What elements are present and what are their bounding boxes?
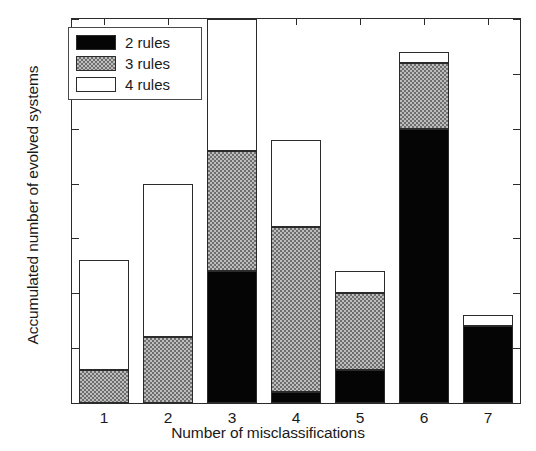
bar-segment [271,227,321,392]
bar-segment [399,63,449,129]
legend-item: 3 rules [69,53,201,74]
bar-chart-figure: Accumulated number of evolved systems Nu… [0,0,536,451]
white-swatch-icon [76,77,116,92]
gray-swatch-icon [76,56,116,71]
y-axis-label: Accumulated number of evolved systems [24,5,42,405]
legend-item: 2 rules [69,32,201,53]
bar-segment [399,52,449,63]
x-tick-label: 7 [458,409,518,427]
x-tick-label: 1 [74,409,134,427]
bar-segment [143,337,193,403]
black-swatch-icon [76,35,116,50]
bar-segment [335,271,385,293]
bar-stack [207,19,257,403]
x-tick-label: 2 [138,409,198,427]
y-tick-mark-right [513,19,520,20]
bar-segment [207,151,257,272]
bar-segment [335,293,385,370]
bar-segment [399,129,449,403]
x-tick-label: 4 [266,409,326,427]
bar-segment [79,370,129,403]
bar-segment [271,140,321,228]
y-tick-mark [72,293,79,294]
legend-item-label: 4 rules [125,77,170,92]
y-tick-mark-right [513,184,520,185]
legend-item-label: 3 rules [125,56,170,71]
y-tick-mark-right [513,348,520,349]
bar-stack [271,19,321,403]
y-tick-mark [72,348,79,349]
y-tick-mark-right [513,74,520,75]
bar-segment [463,315,513,326]
y-tick-mark [72,403,79,404]
bar-segment [143,184,193,338]
y-tick-mark-right [513,403,520,404]
bar-stack [335,19,385,403]
bar-segment [79,260,129,370]
y-tick-mark [72,19,79,20]
y-tick-mark-right [513,238,520,239]
legend: 2 rules 3 rules 4 rules [68,27,202,100]
legend-item-label: 2 rules [125,35,170,50]
y-tick-mark-right [513,293,520,294]
bar-segment [207,19,257,151]
x-tick-label: 3 [202,409,262,427]
x-tick-label: 6 [394,409,454,427]
x-tick-label: 5 [330,409,390,427]
bar-segment [463,326,513,403]
bar-stack [463,19,513,403]
y-tick-mark-right [513,129,520,130]
bar-segment [335,370,385,403]
bar-segment [207,271,257,403]
bar-stack [399,19,449,403]
y-tick-mark [72,129,79,130]
bar-segment [271,392,321,403]
y-tick-mark [72,184,79,185]
y-tick-mark [72,238,79,239]
legend-item: 4 rules [69,74,201,95]
